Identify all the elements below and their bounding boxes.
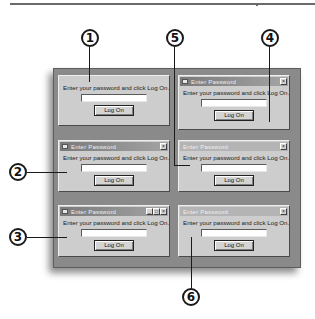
window-icon[interactable] [62,144,68,149]
window-icon[interactable] [182,79,188,84]
callout-1: 1 [81,29,99,47]
dialog-inactive-close-2: Enter Password × Enter your password and… [178,205,290,257]
title-bar[interactable]: Enter Password × [60,142,168,151]
dialog-close-active: Enter Password × Enter your password and… [58,140,170,192]
callout-3: 3 [9,228,27,246]
prompt-text: Enter your password and click Log On. [63,154,169,161]
password-input[interactable] [81,229,147,237]
leader-line-2 [27,172,67,173]
title-bar[interactable]: Enter Password × [180,142,288,151]
dialog-min-max-close: Enter Password _ □ × Enter your password… [58,205,170,257]
maximize-icon[interactable]: □ [153,208,160,215]
close-icon[interactable]: × [280,78,287,85]
prompt-text: Enter your password and click Log On. [63,219,169,226]
page-top-rule [10,3,315,5]
window-title: Enter Password [183,209,228,215]
dialog-close-only: Enter Password × Enter your password and… [178,75,290,130]
window-title: Enter Password [71,209,116,215]
log-on-button[interactable]: Log On [214,110,254,121]
close-icon[interactable]: × [160,208,167,215]
callout-2: 2 [9,163,27,181]
close-icon[interactable]: × [280,208,287,215]
password-input[interactable] [201,99,267,107]
log-on-button[interactable]: Log On [94,105,134,116]
callout-4: 4 [261,29,279,47]
leader-line-6 [191,237,192,288]
password-input[interactable] [81,94,147,102]
prompt-text: Enter your password and click Log On. [183,154,289,161]
title-bar[interactable]: Enter Password _ □ × [60,207,168,216]
password-input[interactable] [81,164,147,172]
leader-line-1 [89,47,90,82]
leader-line-4 [269,47,270,122]
window-title: Enter Password [183,144,228,150]
prompt-text: Enter your password and click Log On. [63,84,169,91]
password-input[interactable] [201,164,267,172]
window-title: Enter Password [71,144,116,150]
minimize-icon[interactable]: _ [146,208,153,215]
callout-6: 6 [182,288,200,306]
log-on-button[interactable]: Log On [94,240,134,251]
log-on-button[interactable]: Log On [214,175,254,186]
callout-5: 5 [166,29,184,47]
log-on-button[interactable]: Log On [214,240,254,251]
title-bar[interactable]: Enter Password × [180,77,288,86]
leader-line-5 [174,47,175,165]
window-title: Enter Password [191,79,236,85]
dialogs-panel: Enter your password and click Log On. Lo… [53,68,301,268]
prompt-text: Enter your password and click Log On. [183,219,289,226]
close-icon[interactable]: × [280,143,287,150]
rule-tick [256,3,258,6]
dialog-no-titlebar: Enter your password and click Log On. Lo… [58,75,170,126]
log-on-button[interactable]: Log On [94,175,134,186]
leader-line-5-h [174,165,190,166]
leader-line-3 [27,237,67,238]
prompt-text: Enter your password and click Log On. [183,89,289,96]
close-icon[interactable]: × [160,143,167,150]
window-icon[interactable] [62,209,68,214]
password-input[interactable] [201,229,267,237]
title-bar[interactable]: Enter Password × [180,207,288,216]
dialog-inactive-close: Enter Password × Enter your password and… [178,140,290,192]
